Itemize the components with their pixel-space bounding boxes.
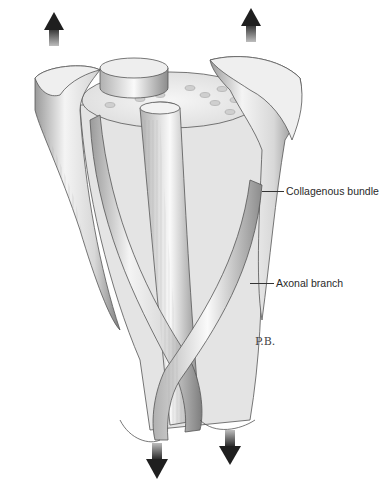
up-arrow-left-icon [44,12,64,46]
collagenous-leader-line [262,191,284,192]
up-arrow-right-icon [241,8,261,42]
axonal-leader-line [250,283,274,284]
artist-signature: P.B. [255,335,275,348]
down-arrow-right-icon [219,430,241,465]
label-axonal-branch: Axonal branch [276,277,343,289]
illustration: P.B. [0,0,380,483]
down-arrow-left-icon [146,443,168,479]
label-collagenous-bundle: Collagenous bundle [286,185,379,197]
